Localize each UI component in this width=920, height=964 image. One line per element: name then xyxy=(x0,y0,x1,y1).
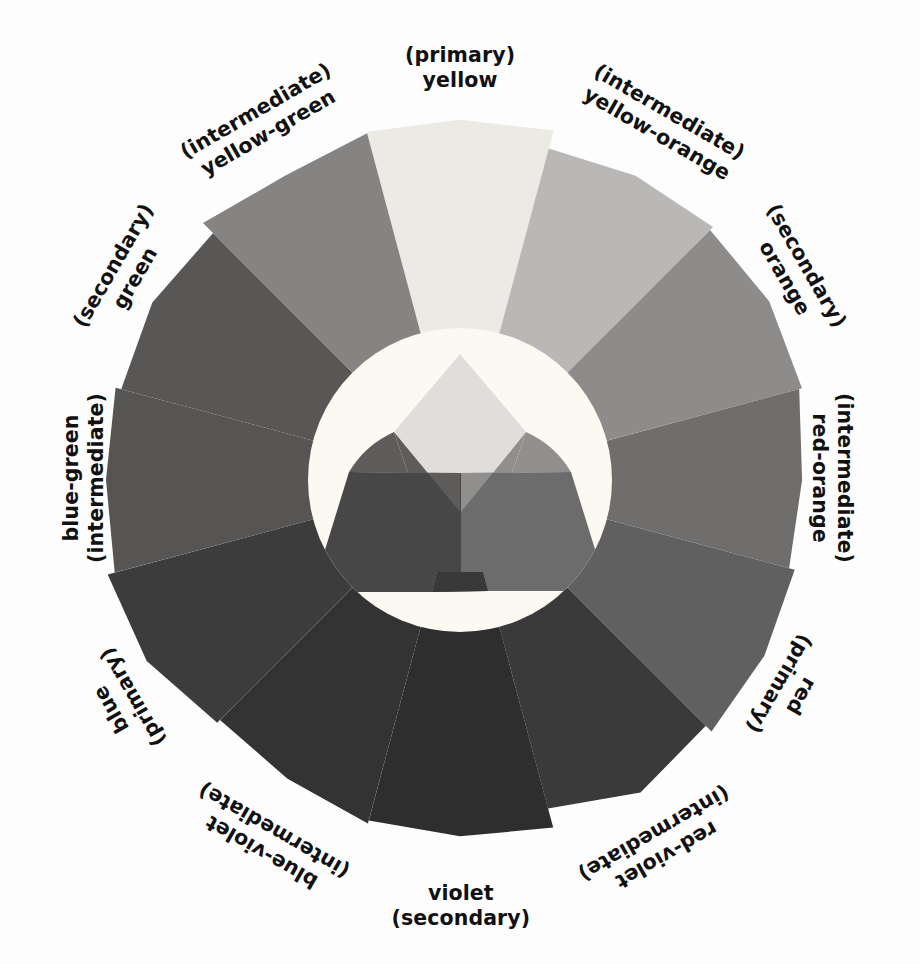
violet-arc-shape xyxy=(432,572,488,592)
color-wheel-figure: (primary)yellow(intermediate)yellow-oran… xyxy=(0,0,920,964)
color-wheel-graphic xyxy=(0,0,920,964)
